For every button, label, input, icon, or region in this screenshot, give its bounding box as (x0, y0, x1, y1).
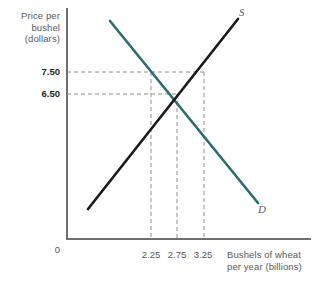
y-tick-label-650: 6.50 (26, 88, 60, 99)
supply-demand-chart: Price per bushel (dollars) Bushels of wh… (0, 0, 322, 285)
guide-lines-group (67, 72, 204, 238)
origin-tick-label: 0 (44, 244, 60, 255)
axes-group (66, 8, 311, 239)
x-tick-label-325: 3.25 (188, 249, 218, 260)
x-axis-title: Bushels of wheat per year (billions) (227, 249, 322, 272)
demand-curve-label: D (258, 203, 266, 215)
y-tick-label-750: 7.50 (26, 66, 60, 77)
y-axis-title: Price per bushel (dollars) (2, 10, 60, 45)
curves-group (88, 19, 258, 209)
supply-curve (88, 19, 238, 209)
supply-curve-label: S (239, 6, 245, 18)
demand-curve (110, 21, 258, 203)
